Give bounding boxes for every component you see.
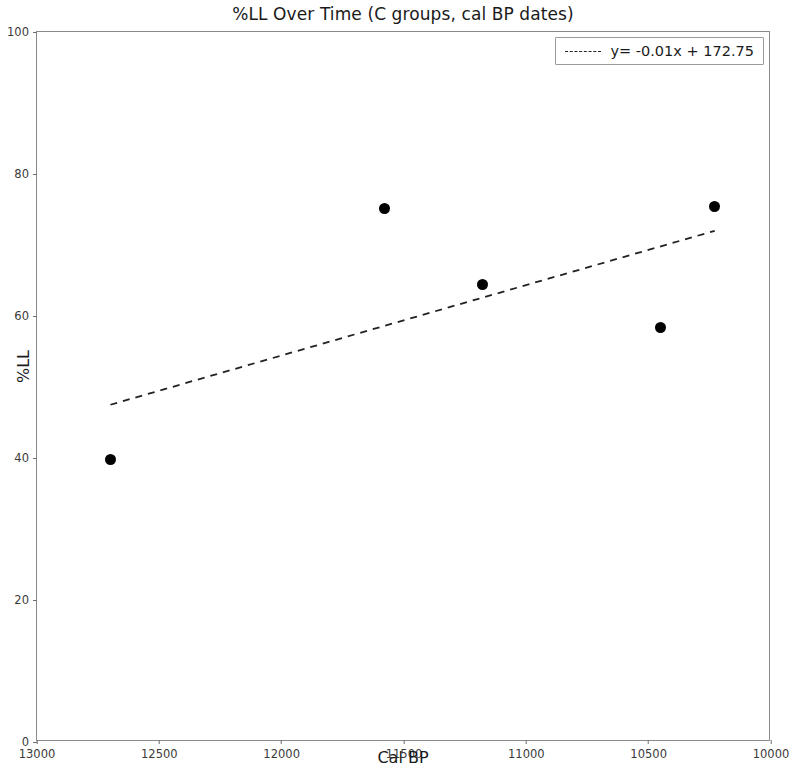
y-axis-tick: 20	[14, 593, 37, 607]
trendline-segment	[110, 231, 714, 405]
data-point	[105, 454, 116, 465]
y-axis-tick: 100	[7, 25, 37, 39]
y-axis-tick-label: 40	[14, 451, 33, 465]
y-axis-tick-mark	[33, 458, 37, 459]
legend: y= -0.01x + 172.75	[555, 37, 764, 65]
legend-dashed-line-icon	[565, 51, 601, 52]
trendline	[37, 32, 771, 742]
y-axis-tick-label: 20	[14, 593, 33, 607]
y-axis-tick-mark	[33, 600, 37, 601]
plot-area: 020406080100 130001250012000115001100010…	[36, 31, 770, 741]
y-axis-tick-mark	[33, 174, 37, 175]
y-axis-tick-label: 80	[14, 167, 33, 181]
y-axis-label: %LL	[14, 317, 33, 417]
y-axis-tick-mark	[33, 316, 37, 317]
chart-title: %LL Over Time (C groups, cal BP dates)	[36, 4, 770, 24]
plot-inner	[37, 32, 769, 740]
y-axis-tick: 40	[14, 451, 37, 465]
y-axis-tick-mark	[33, 32, 37, 33]
y-axis-tick: 80	[14, 167, 37, 181]
legend-entry-label: y= -0.01x + 172.75	[610, 43, 754, 59]
y-axis-tick-label: 100	[7, 25, 33, 39]
chart-figure: %LL Over Time (C groups, cal BP dates) 0…	[0, 0, 798, 773]
data-point	[477, 279, 488, 290]
x-axis-label: Cal BP	[36, 748, 770, 767]
